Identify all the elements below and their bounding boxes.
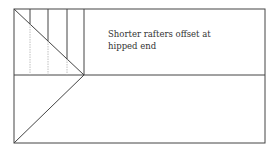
roof-plan-diagram [0, 0, 275, 151]
annotation-line-2: hipped end [108, 40, 218, 52]
hip-line-upper [14, 9, 84, 75]
hip-line-lower [14, 75, 84, 143]
annotation-text: Shorter rafters offset at hipped end [108, 28, 218, 52]
jack-rafters [30, 9, 84, 75]
annotation-line-1: Shorter rafters offset at [108, 28, 218, 40]
